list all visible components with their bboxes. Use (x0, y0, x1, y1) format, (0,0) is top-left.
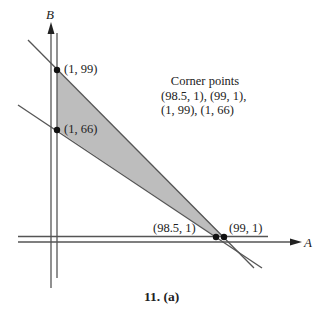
feasible-region-diagram: B A (1, 99) (1, 66) (98.5, 1) (99, 1) Co… (0, 0, 323, 316)
a-axis-label: A (304, 236, 312, 249)
note-title: Corner points (161, 74, 249, 89)
point-label-98-5-1: (98.5, 1) (153, 222, 196, 235)
corner-point-1-66 (54, 127, 60, 133)
note-line-1: (98.5, 1), (99, 1), (161, 89, 249, 104)
figure-caption: 11. (a) (0, 289, 323, 305)
note-line-2: (1, 99), (1, 66) (161, 103, 249, 118)
b-axis-label: B (46, 8, 54, 21)
corner-point-1-99 (54, 67, 60, 73)
point-label-1-99: (1, 99) (64, 63, 97, 76)
a-axis-arrow-icon (290, 239, 302, 246)
b-axis-arrow-icon (48, 22, 55, 34)
corner-point-99-1 (221, 234, 227, 240)
diagram-canvas (0, 0, 323, 316)
corner-point-98-5-1 (213, 234, 219, 240)
corner-points-note: Corner points (98.5, 1), (99, 1), (1, 99… (161, 74, 249, 118)
point-label-99-1: (99, 1) (229, 222, 262, 235)
point-label-1-66: (1, 66) (64, 123, 97, 136)
